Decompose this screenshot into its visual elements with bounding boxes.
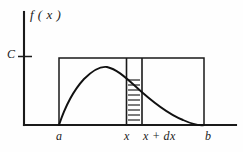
x-tick-label-x-plus-dx: x + dx <box>143 130 176 142</box>
x-tick-label-x: x <box>124 130 129 142</box>
y-tick-label-c: C <box>7 48 15 60</box>
y-axis-label: f ( x ) <box>30 8 61 21</box>
function-curve <box>59 67 204 125</box>
x-tick-label-b: b <box>205 130 211 142</box>
x-tick-label-a: a <box>56 130 62 142</box>
x-plus-d-prefix: x + d <box>143 129 170 143</box>
figure-container: f ( x ) C a x x + dx b <box>0 0 243 152</box>
dx-variable-suffix: x <box>170 129 176 143</box>
